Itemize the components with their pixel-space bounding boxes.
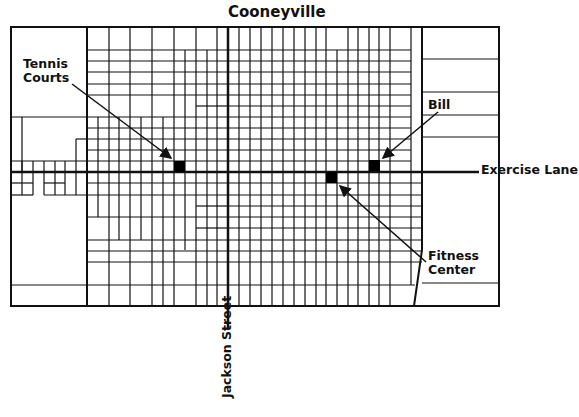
tennis-courts-label-line2: Courts bbox=[23, 71, 69, 85]
city-map bbox=[0, 0, 579, 417]
tennis-courts-label-line1: Tennis bbox=[23, 57, 69, 71]
tennis-courts-label: Tennis Courts bbox=[23, 57, 69, 85]
fitness-center-label: Fitness Center bbox=[428, 249, 479, 277]
tennis-courts-marker bbox=[174, 161, 185, 172]
block-grid bbox=[11, 27, 499, 306]
fitness-center-marker bbox=[326, 172, 337, 183]
fitness-center-label-line2: Center bbox=[428, 263, 479, 277]
jackson-street-label: Jackson Street bbox=[220, 287, 234, 407]
map-title: Cooneyville bbox=[228, 4, 326, 21]
bill-label: Bill bbox=[428, 98, 450, 112]
exercise-lane-label: Exercise Lane bbox=[481, 163, 578, 177]
bill-marker bbox=[369, 160, 380, 171]
city-boundary bbox=[11, 27, 499, 306]
fitness-center-label-line1: Fitness bbox=[428, 249, 479, 263]
